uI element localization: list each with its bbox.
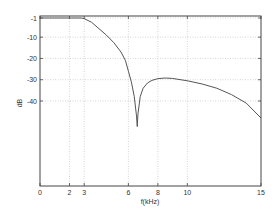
- response-curve: [40, 18, 261, 127]
- y-tick-label: -30: [27, 76, 37, 83]
- grid-lines: [40, 16, 261, 186]
- chart-canvas: -1-10-20-30-40 023681015 f(kHz) dB: [0, 0, 276, 217]
- y-axis-label: dB: [16, 98, 23, 107]
- y-tick-label: -20: [27, 55, 37, 62]
- x-axis-ticks: 023681015: [38, 16, 265, 196]
- x-tick-label: 3: [82, 189, 86, 196]
- y-tick-label: -1: [31, 15, 37, 22]
- y-tick-label: -40: [27, 98, 37, 105]
- x-tick-label: 15: [257, 189, 265, 196]
- x-axis-label: f(kHz): [141, 198, 160, 206]
- y-axis-ticks: -1-10-20-30-40: [27, 15, 261, 105]
- x-tick-label: 6: [126, 189, 130, 196]
- y-tick-label: -10: [27, 34, 37, 41]
- x-tick-label: 2: [68, 189, 72, 196]
- frequency-response-chart: -1-10-20-30-40 023681015 f(kHz) dB: [0, 0, 276, 217]
- x-tick-label: 0: [38, 189, 42, 196]
- x-tick-label: 8: [156, 189, 160, 196]
- x-tick-label: 10: [183, 189, 191, 196]
